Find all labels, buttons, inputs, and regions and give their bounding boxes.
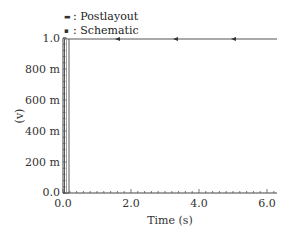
y-tick-label: 1.0 xyxy=(43,32,61,45)
y-tick-label: 200 m xyxy=(25,156,60,169)
x-tick-label: 2.0 xyxy=(122,197,140,210)
y-tick-label: 600 m xyxy=(25,94,60,107)
arrow-marker xyxy=(231,37,236,41)
y-tick-label: 400 m xyxy=(25,125,60,138)
x-tick-label: 6.0 xyxy=(258,197,276,210)
x-tick-label: 0.0 xyxy=(54,197,72,210)
y-axis-title: (v) xyxy=(13,109,26,124)
x-tick-label: 4.0 xyxy=(190,197,208,210)
y-tick-label: 800 m xyxy=(25,63,60,76)
series-postlayout xyxy=(63,39,277,193)
arrow-marker xyxy=(173,37,178,41)
chart-canvas: 1.0 800 m 600 m 400 m 200 m 0.0 0.0 2.0 … xyxy=(0,0,293,236)
x-minor-ticks xyxy=(63,189,274,193)
series-schematic xyxy=(63,39,69,193)
arrow-marker xyxy=(115,37,120,41)
x-axis-title: Time (s) xyxy=(147,214,193,227)
